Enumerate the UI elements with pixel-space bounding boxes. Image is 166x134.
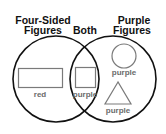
rectangle-label: red: [34, 90, 47, 99]
intersection-title: Both: [73, 24, 97, 36]
circle-shape-icon: [112, 44, 136, 68]
venn-svg: Four-Sided Figures Both Purple Figures r…: [0, 0, 166, 134]
square-shape-icon: [76, 68, 96, 88]
triangle-shape-icon: [105, 82, 131, 104]
rectangle-shape-icon: [19, 69, 63, 88]
triangle-label: purple: [106, 106, 131, 115]
right-set-title-line2: Figures: [113, 24, 151, 36]
venn-diagram: Four-Sided Figures Both Purple Figures r…: [0, 0, 166, 134]
square-label: purple: [73, 90, 98, 99]
circle-label: purple: [112, 68, 137, 77]
left-set-circle: [13, 36, 99, 122]
left-set-title-line2: Figures: [24, 24, 62, 36]
